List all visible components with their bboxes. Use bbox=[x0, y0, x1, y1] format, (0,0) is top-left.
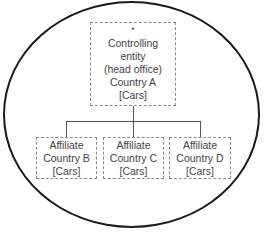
head-office-line-2: entity bbox=[120, 50, 145, 63]
head-office-line-4: Country A bbox=[110, 76, 156, 89]
connector-to-b bbox=[66, 121, 67, 137]
head-office-line-3: (head office) bbox=[104, 63, 162, 76]
connector-trunk bbox=[133, 106, 134, 121]
affiliate-d-line-1: Affiliate bbox=[183, 139, 217, 152]
affiliate-d-line-2: Country D bbox=[176, 152, 223, 165]
head-office-line-1: Controlling bbox=[108, 37, 158, 50]
affiliate-box-c: Affiliate Country C [Cars] bbox=[103, 137, 164, 179]
head-office-line-5: [Cars] bbox=[119, 89, 147, 102]
connector-to-d bbox=[200, 121, 201, 137]
affiliate-box-d: Affiliate Country D [Cars] bbox=[169, 137, 231, 179]
asterisk-marker: * bbox=[131, 26, 135, 34]
affiliate-c-line-3: [Cars] bbox=[119, 165, 147, 178]
head-office-box: * Controlling entity (head office) Count… bbox=[90, 22, 176, 106]
affiliate-b-line-1: Affiliate bbox=[49, 139, 83, 152]
affiliate-d-line-3: [Cars] bbox=[186, 165, 214, 178]
affiliate-c-line-1: Affiliate bbox=[116, 139, 150, 152]
affiliate-box-b: Affiliate Country B [Cars] bbox=[36, 137, 97, 179]
affiliate-b-line-3: [Cars] bbox=[52, 165, 80, 178]
affiliate-b-line-2: Country B bbox=[43, 152, 90, 165]
affiliate-c-line-2: Country C bbox=[110, 152, 157, 165]
connector-to-c bbox=[133, 121, 134, 137]
